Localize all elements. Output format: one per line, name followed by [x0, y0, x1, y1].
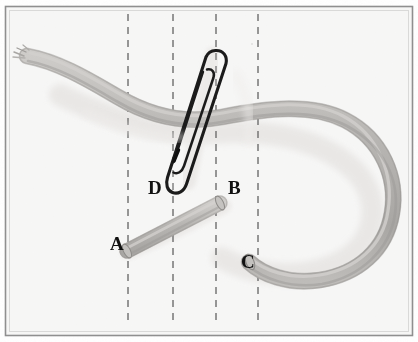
figure-canvas — [0, 0, 418, 342]
figure-container: A B C D — [0, 0, 418, 342]
